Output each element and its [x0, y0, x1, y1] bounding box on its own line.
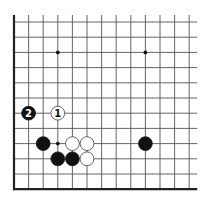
star-point — [56, 142, 60, 146]
white-stone — [66, 137, 80, 151]
black-stone — [66, 152, 80, 166]
board-grid — [13, 15, 197, 190]
move-number: 2 — [25, 108, 32, 119]
black-stone — [51, 152, 65, 166]
go-board: 21 — [0, 0, 209, 202]
black-stone — [36, 137, 50, 151]
white-stone: 1 — [51, 106, 65, 120]
black-stone — [139, 137, 153, 151]
white-stone — [80, 137, 94, 151]
star-point — [144, 51, 148, 55]
star-point — [56, 51, 60, 55]
white-stone — [80, 152, 94, 166]
move-number: 1 — [54, 108, 61, 119]
black-stone: 2 — [22, 106, 36, 120]
